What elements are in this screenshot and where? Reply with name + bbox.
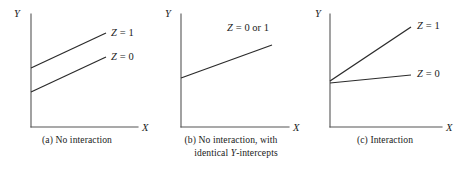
panel-a-plot: Y X Z= 1 Z= 0 — [0, 0, 154, 140]
panel-b-caption-line1: (b) No interaction, with — [185, 134, 278, 145]
panel-c-series-var-z1: Z — [417, 20, 423, 31]
panel-c-x-axis-label: X — [445, 122, 453, 133]
panel-c-line-z1 — [330, 27, 411, 81]
panel-a-series-rest-z1: = 1 — [120, 27, 134, 38]
panel-b-caption-line2-pre: identical — [194, 147, 230, 158]
panel-c-series-rest-z1: = 1 — [426, 20, 440, 31]
panel-b-caption-line2-post: -intercepts — [236, 147, 278, 158]
panel-a-series-var-z0: Z — [111, 51, 117, 62]
panel-c-series-label-z1: Z= 1 — [417, 20, 440, 31]
panel-b-x-axis-label: X — [292, 122, 300, 133]
panel-a-series-label-z0: Z= 0 — [111, 51, 134, 62]
panel-a-caption: (a) No interaction — [0, 134, 154, 147]
panel-c-series-rest-z0: = 0 — [426, 68, 440, 79]
panel-a-no-interaction: Y X Z= 1 Z= 0 (a) No interaction — [0, 0, 154, 178]
panel-c-caption: (c) Interaction — [308, 134, 462, 147]
panel-a-series-rest-z0: = 0 — [120, 51, 134, 62]
panel-c-series-var-z0: Z — [417, 68, 423, 79]
panel-b-series-var: Z — [227, 22, 233, 33]
panel-b-caption-line2: identical Y-intercepts — [154, 147, 308, 160]
panel-c-plot: Y X Z= 1 Z= 0 — [308, 0, 462, 140]
panel-b-y-axis-label: Y — [165, 8, 172, 19]
panel-a-series-label-z1: Z= 1 — [111, 27, 134, 38]
panel-c-series-label-z0: Z= 0 — [417, 68, 440, 79]
panel-b-caption: (b) No interaction, with identical Y-int… — [154, 134, 308, 159]
panel-c-caption-line1: (c) Interaction — [357, 134, 413, 145]
panel-b-plot: Y X Z= 0 or 1 — [154, 0, 308, 140]
panel-a-x-axis-label: X — [141, 122, 149, 133]
panel-b-series-label-z0-or-z1: Z= 0 or 1 — [227, 22, 269, 33]
panel-a-y-axis-label: Y — [14, 8, 21, 19]
panel-b-series-rest: = 0 or 1 — [236, 22, 269, 33]
panel-a-series-var-z1: Z — [111, 27, 117, 38]
panel-c-interaction: Y X Z= 1 Z= 0 (c) Interaction — [308, 0, 462, 178]
panel-c-line-z0 — [330, 75, 411, 83]
panel-c-y-axis-label: Y — [315, 8, 322, 19]
panel-b-line-z0-or-z1 — [181, 45, 272, 78]
panel-b-no-interaction-identical-intercepts: Y X Z= 0 or 1 (b) No interaction, with i… — [154, 0, 308, 178]
panel-a-caption-line1: (a) No interaction — [42, 134, 112, 145]
interaction-figure: Y X Z= 1 Z= 0 (a) No interaction Y X Z= … — [0, 0, 462, 178]
